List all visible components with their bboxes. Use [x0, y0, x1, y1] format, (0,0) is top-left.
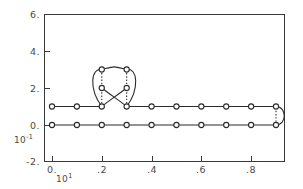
data-point-lower: [224, 122, 229, 127]
y-axis-exponent: 10-1: [14, 133, 33, 145]
y-tick-label-4: 4.: [0, 46, 40, 57]
y-tick-label-2: 2.: [0, 83, 40, 94]
data-point-lower: [99, 122, 104, 127]
plot-data-area: [44, 14, 285, 162]
y-exponent-base: 10: [14, 135, 26, 145]
data-point-upper: [124, 104, 129, 109]
data-point-upper: [49, 104, 54, 109]
data-point-lower: [49, 122, 54, 127]
data-point-lower: [174, 122, 179, 127]
data-point-loop-middle: [99, 85, 104, 90]
x-axis-exponent: 101: [56, 172, 73, 184]
data-point-loop-top: [124, 67, 129, 72]
data-point-loop-top: [99, 67, 104, 72]
data-point-upper: [174, 104, 179, 109]
x-exponent-base: 10: [56, 174, 68, 184]
data-point-lower: [249, 122, 254, 127]
data-point-lower: [74, 122, 79, 127]
y-tick-label-minus2: -2.: [0, 156, 40, 167]
data-point-upper: [224, 104, 229, 109]
data-point-upper: [273, 104, 278, 109]
chart-figure: 6. 4. 2. 0. -2. 10-1 0. .2 .4 .6 .8 101: [0, 0, 303, 189]
x-tick-label-6: .6: [186, 164, 216, 175]
x-tick-label-2: .2: [87, 164, 117, 175]
data-point-upper: [99, 104, 104, 109]
x-tick-label-8: .8: [236, 164, 266, 175]
data-point-upper: [199, 104, 204, 109]
data-point-upper: [149, 104, 154, 109]
y-exponent-power: -1: [26, 133, 33, 141]
data-point-loop-middle: [124, 85, 129, 90]
x-tick-label-4: .4: [137, 164, 167, 175]
data-point-lower: [273, 122, 278, 127]
data-point-lower: [149, 122, 154, 127]
curve-loop-top-arc: [102, 67, 127, 70]
y-tick-label-6: 6.: [0, 9, 40, 20]
data-point-upper: [249, 104, 254, 109]
y-tick-label-0: 0.: [0, 120, 40, 131]
x-exponent-power: 1: [68, 172, 72, 180]
data-point-lower: [199, 122, 204, 127]
data-point-lower: [124, 122, 129, 127]
data-point-upper: [74, 104, 79, 109]
